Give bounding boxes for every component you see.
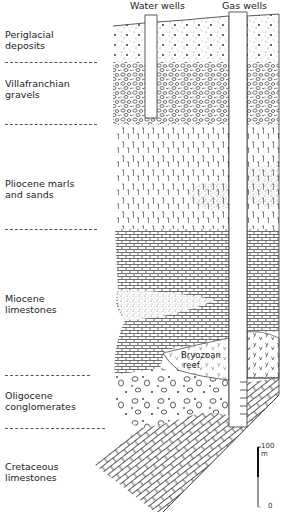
strip-periglacial [247,14,279,62]
scale-bottom-label: 0 [268,502,272,510]
gas-well [229,12,247,427]
layer-villafranchian [113,62,229,124]
reef-label: Bryozoan [181,350,221,360]
layer-periglacial [113,16,229,62]
water-well [145,15,157,118]
strip-sand [247,165,279,207]
strip-gravel [247,62,279,124]
layer-pliocene [114,124,229,229]
reef-label: reef [183,360,201,370]
scale-top-label: 100 m [261,442,281,458]
geological-cross-section: y y Bryozoan reef [0,0,281,512]
strip-miocene [247,229,279,332]
